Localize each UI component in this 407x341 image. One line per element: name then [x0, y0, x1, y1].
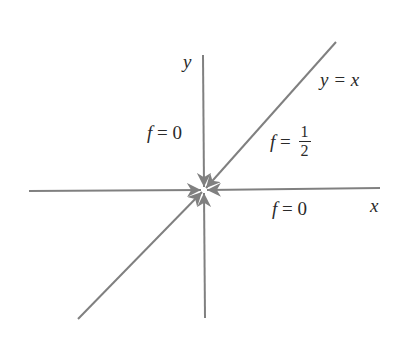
- diagonal-upper: [206, 42, 336, 188]
- diagonal-value-label: f = 12: [270, 124, 311, 159]
- y-axis-top: [203, 55, 204, 187]
- y-axis-label: y: [183, 52, 191, 71]
- x-axis-label: x: [370, 196, 378, 215]
- diagonal-line-label: y = x: [320, 70, 359, 89]
- x-axis-right: [207, 188, 380, 190]
- y-axis-value: 0: [173, 122, 183, 143]
- y-axis-bottom: [204, 193, 205, 318]
- x-axis-eq: =: [277, 198, 297, 219]
- y-axis-value-label: f = 0: [147, 123, 182, 142]
- fraction-denominator: 2: [301, 142, 309, 159]
- diagonal-lower: [78, 192, 202, 319]
- x-axis-value: 0: [298, 198, 308, 219]
- diagram-canvas: [0, 0, 407, 341]
- fraction-numerator: 1: [299, 124, 311, 142]
- y-axis-eq: =: [152, 122, 172, 143]
- fraction-one-half: 12: [299, 124, 311, 159]
- x-axis-value-label: f = 0: [272, 199, 307, 218]
- x-axis-left: [29, 190, 201, 191]
- diagonal-eq: =: [275, 131, 295, 152]
